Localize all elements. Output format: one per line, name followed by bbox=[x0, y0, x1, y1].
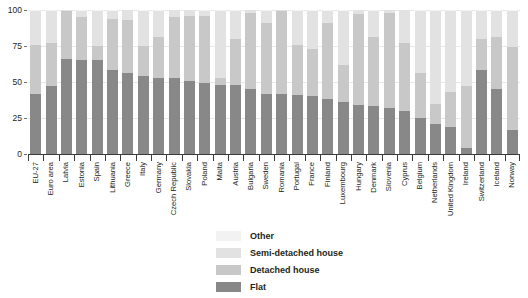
bar-slot[interactable] bbox=[243, 10, 258, 154]
x-axis-label: Norway bbox=[508, 162, 516, 188]
bar-slot[interactable] bbox=[151, 10, 166, 154]
stacked-bar[interactable] bbox=[46, 10, 57, 154]
bar-segment-detached-house bbox=[153, 37, 164, 77]
x-tick-mark bbox=[382, 154, 397, 161]
bar-segment-flat bbox=[384, 108, 395, 154]
stacked-bar[interactable] bbox=[30, 10, 41, 154]
stacked-bar[interactable] bbox=[292, 10, 303, 154]
bar-slot[interactable] bbox=[382, 10, 397, 154]
x-axis-label: Greece bbox=[124, 162, 132, 187]
stacked-bar[interactable] bbox=[415, 10, 426, 154]
bar-slot[interactable] bbox=[397, 10, 412, 154]
legend-item[interactable]: Detached house bbox=[216, 262, 343, 278]
bar-slot[interactable] bbox=[197, 10, 212, 154]
stacked-bar[interactable] bbox=[461, 10, 472, 154]
stacked-bar[interactable] bbox=[507, 10, 518, 154]
bar-slot[interactable] bbox=[443, 10, 458, 154]
bar-slot[interactable] bbox=[228, 10, 243, 154]
stacked-bar[interactable] bbox=[338, 10, 349, 154]
bar-slot[interactable] bbox=[305, 10, 320, 154]
x-label-slot: Iceland bbox=[489, 162, 504, 224]
bar-slot[interactable] bbox=[166, 10, 181, 154]
bar-slot[interactable] bbox=[366, 10, 381, 154]
bar-slot[interactable] bbox=[213, 10, 228, 154]
stacked-bar[interactable] bbox=[92, 10, 103, 154]
bar-segment-detached-house bbox=[430, 104, 441, 124]
x-tick-mark bbox=[474, 154, 489, 161]
stacked-bar[interactable] bbox=[184, 10, 195, 154]
stacked-bar[interactable] bbox=[230, 10, 241, 154]
stacked-bar[interactable] bbox=[153, 10, 164, 154]
x-axis-label: Slovakia bbox=[185, 162, 193, 191]
bar-slot[interactable] bbox=[274, 10, 289, 154]
stacked-bar[interactable] bbox=[76, 10, 87, 154]
bar-slot[interactable] bbox=[320, 10, 335, 154]
x-label-slot: Greece bbox=[120, 162, 135, 224]
stacked-bar[interactable] bbox=[215, 10, 226, 154]
stacked-bar[interactable] bbox=[353, 10, 364, 154]
bar-segment-detached-house bbox=[199, 16, 210, 84]
bar-segment-detached-house bbox=[491, 37, 502, 89]
bar-slot[interactable] bbox=[489, 10, 504, 154]
stacked-bar[interactable] bbox=[138, 10, 149, 154]
bar-segment-flat bbox=[368, 106, 379, 154]
x-axis-label: Latvia bbox=[62, 162, 70, 182]
stacked-bar[interactable] bbox=[491, 10, 502, 154]
bar-segment-flat bbox=[30, 94, 41, 154]
stacked-bar[interactable] bbox=[399, 10, 410, 154]
stacked-bar[interactable] bbox=[122, 10, 133, 154]
bar-segment-flat bbox=[507, 130, 518, 154]
bar-slot[interactable] bbox=[43, 10, 58, 154]
legend-swatch-icon bbox=[216, 248, 241, 258]
bar-slot[interactable] bbox=[351, 10, 366, 154]
bar-slot[interactable] bbox=[182, 10, 197, 154]
x-label-slot: United Kingdom bbox=[443, 162, 458, 224]
stacked-bar[interactable] bbox=[199, 10, 210, 154]
stacked-bar[interactable] bbox=[276, 10, 287, 154]
bar-slot[interactable] bbox=[412, 10, 427, 154]
stacked-bar[interactable] bbox=[368, 10, 379, 154]
x-label-slot: Luxembourg bbox=[336, 162, 351, 224]
bar-slot[interactable] bbox=[136, 10, 151, 154]
bar-segment-flat bbox=[399, 111, 410, 154]
bar-slot[interactable] bbox=[336, 10, 351, 154]
bar-slot[interactable] bbox=[459, 10, 474, 154]
x-axis-label: EU-27 bbox=[32, 162, 40, 184]
stacked-bar[interactable] bbox=[384, 10, 395, 154]
stacked-bar[interactable] bbox=[261, 10, 272, 154]
plot-area bbox=[28, 10, 520, 154]
x-tick-mark bbox=[228, 154, 243, 161]
legend-item[interactable]: Flat bbox=[216, 279, 343, 295]
bar-slot[interactable] bbox=[474, 10, 489, 154]
bar-slot[interactable] bbox=[28, 10, 43, 154]
stacked-bar[interactable] bbox=[430, 10, 441, 154]
bar-slot[interactable] bbox=[259, 10, 274, 154]
bar-slot[interactable] bbox=[59, 10, 74, 154]
x-label-slot: Romania bbox=[274, 162, 289, 224]
bar-segment-detached-house bbox=[292, 45, 303, 95]
bar-segment-detached-house bbox=[261, 23, 272, 94]
bar-slot[interactable] bbox=[90, 10, 105, 154]
legend-item[interactable]: Other bbox=[216, 228, 343, 244]
legend-label: Flat bbox=[250, 282, 266, 292]
bar-segment-flat bbox=[476, 70, 487, 154]
stacked-bar[interactable] bbox=[322, 10, 333, 154]
bar-slot[interactable] bbox=[120, 10, 135, 154]
x-label-slot: Estonia bbox=[74, 162, 89, 224]
bar-slot[interactable] bbox=[289, 10, 304, 154]
stacked-bar[interactable] bbox=[61, 10, 72, 154]
x-axis-label: Luxembourg bbox=[339, 162, 347, 204]
legend-label: Detached house bbox=[250, 265, 320, 275]
stacked-bar[interactable] bbox=[107, 10, 118, 154]
stacked-bar[interactable] bbox=[307, 10, 318, 154]
stacked-bar[interactable] bbox=[445, 10, 456, 154]
legend-item[interactable]: Semi-detached house bbox=[216, 245, 343, 261]
bar-slot[interactable] bbox=[105, 10, 120, 154]
bar-slot[interactable] bbox=[428, 10, 443, 154]
bar-slot[interactable] bbox=[74, 10, 89, 154]
x-axis-label: Hungary bbox=[355, 162, 363, 191]
stacked-bar[interactable] bbox=[245, 10, 256, 154]
stacked-bar[interactable] bbox=[476, 10, 487, 154]
stacked-bar[interactable] bbox=[169, 10, 180, 154]
bar-slot[interactable] bbox=[505, 10, 520, 154]
